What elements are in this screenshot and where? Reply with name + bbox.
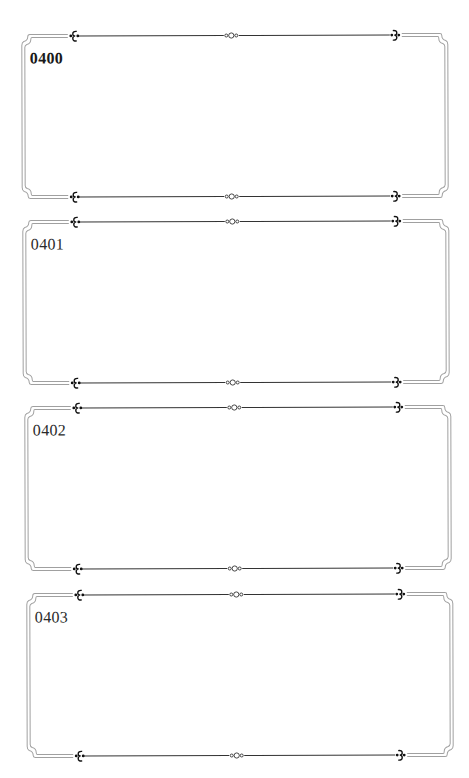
frame-card-0401: 0401 [21, 216, 451, 387]
card-label: 0401 [31, 235, 64, 253]
ornamental-frame [21, 216, 451, 387]
card-label: 0403 [35, 608, 68, 626]
card-label: 0402 [33, 421, 66, 439]
ornamental-frame [23, 402, 453, 573]
ornamental-frame [25, 589, 455, 760]
frame-card-0402: 0402 [23, 402, 453, 573]
frame-card-0403: 0403 [25, 589, 455, 760]
ornamental-frame [20, 30, 450, 201]
frame-card-0400: 0400 [20, 30, 450, 201]
card-label: 0400 [30, 49, 63, 67]
